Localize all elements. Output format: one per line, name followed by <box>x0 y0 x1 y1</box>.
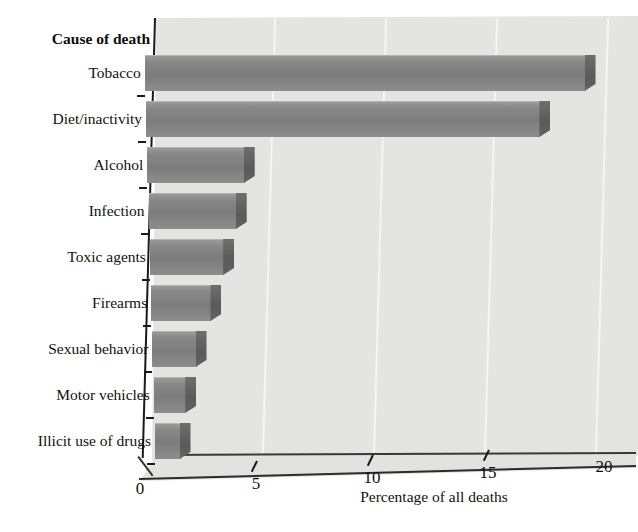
bar <box>155 423 181 459</box>
bar-front-face <box>146 101 540 137</box>
bar-front-face <box>149 193 237 229</box>
y-axis-tick <box>141 233 149 235</box>
category-label-infection: Infection <box>0 203 145 219</box>
x-axis-tick-label-10: 10 <box>352 468 392 488</box>
y-axis-tick <box>144 371 152 373</box>
x-axis-title: Percentage of all deaths <box>0 488 636 506</box>
y-axis-tick <box>143 325 151 327</box>
x-axis-title-text: Percentage of all deaths <box>360 488 508 505</box>
bar <box>154 377 186 413</box>
category-label-motor-vehicles: Motor vehicles <box>0 387 150 403</box>
y-axis-tick <box>137 95 145 97</box>
bar-front-face <box>155 423 181 459</box>
category-label-diet-inactivity: Diet/inactivity <box>0 111 142 127</box>
category-label-illicit-use-of-drugs: Illicit use of drugs <box>1 433 151 449</box>
x-axis-tick-label-20: 20 <box>584 457 624 477</box>
bar-front-face <box>150 239 224 275</box>
category-label-firearms: Firearms <box>0 295 147 311</box>
bar-front-face <box>147 147 244 183</box>
y-axis-title: Cause of death <box>0 30 150 48</box>
category-label-sexual-behavior: Sexual behavior <box>0 341 148 357</box>
bar-front-face <box>152 331 196 367</box>
bar-front-face <box>151 285 211 321</box>
bar <box>151 285 211 321</box>
y-axis-tick <box>138 141 146 143</box>
bar <box>146 101 540 137</box>
x-axis-tick-label-15: 15 <box>468 463 508 483</box>
bar-front-face <box>145 55 586 91</box>
y-axis-tick <box>146 417 154 419</box>
category-label-toxic-agents: Toxic agents <box>0 249 146 265</box>
bar <box>149 193 237 229</box>
category-label-alcohol: Alcohol <box>0 157 143 173</box>
y-axis-tick <box>142 279 150 281</box>
axis-floor-left-edge <box>139 456 157 480</box>
bar-front-face <box>154 377 186 413</box>
y-axis-tick <box>139 187 147 189</box>
bar <box>145 55 586 91</box>
category-label-tobacco: Tobacco <box>0 65 141 81</box>
bar <box>147 147 244 183</box>
bar <box>152 331 196 367</box>
bar <box>150 239 224 275</box>
y-axis-tick <box>147 463 155 465</box>
